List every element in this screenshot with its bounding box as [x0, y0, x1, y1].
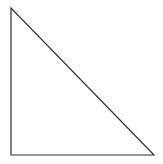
right-triangle [11, 8, 154, 155]
diagram-canvas [0, 0, 163, 164]
